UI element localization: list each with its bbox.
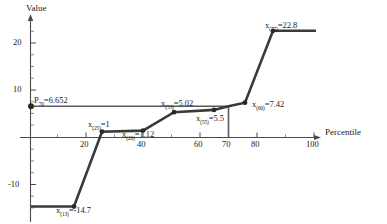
marker-label-x13: x(13)=-14.7 bbox=[56, 206, 91, 217]
marker-label-x53-value: =5.02 bbox=[174, 98, 194, 108]
x-tick-label-100: 100 bbox=[306, 140, 319, 149]
chart-canvas bbox=[0, 0, 387, 224]
annotation-p70: P70=6.652 bbox=[34, 96, 68, 107]
x-tick-label-70: 70 bbox=[222, 140, 231, 149]
x-tick-label-60: 60 bbox=[194, 140, 203, 149]
marker-label-x13-value: =-14.7 bbox=[69, 205, 92, 215]
marker-label-x55-sub: (55) bbox=[200, 119, 208, 125]
data-point-markers bbox=[28, 28, 275, 209]
marker-x53 bbox=[172, 110, 177, 115]
x-tick-label-40: 40 bbox=[137, 140, 146, 149]
y-tick-label-10: 10 bbox=[13, 85, 22, 94]
marker-x55 bbox=[212, 108, 217, 113]
marker-label-x26: x(26)=1.12 bbox=[122, 130, 154, 141]
percentile-curve bbox=[31, 31, 316, 207]
marker-label-x77-value: =22.8 bbox=[278, 20, 298, 30]
y-tick-label-neg10: -10 bbox=[8, 180, 19, 189]
x-tick-marks bbox=[86, 133, 314, 138]
marker-label-x25-sub: (25) bbox=[92, 125, 100, 131]
marker-label-x25-value: =1 bbox=[101, 119, 110, 129]
marker-label-x26-sub: (26) bbox=[126, 135, 134, 141]
x-tick-label-80: 80 bbox=[251, 140, 260, 149]
marker-label-x55-value: =5.5 bbox=[209, 113, 224, 123]
marker-label-x26-value: =1.12 bbox=[135, 129, 155, 139]
marker-label-x25: x(25)=1 bbox=[88, 120, 110, 131]
y-axis-title: Value bbox=[26, 4, 47, 13]
y-tick-label-20: 20 bbox=[13, 38, 22, 47]
marker-label-x60: x(60)=7.42 bbox=[252, 100, 284, 111]
marker-x60 bbox=[243, 100, 248, 105]
marker-label-x60-sub: (60) bbox=[256, 105, 264, 111]
marker-label-x13-sub: (13) bbox=[60, 211, 68, 217]
annotation-p70-value: =6.652 bbox=[44, 95, 68, 105]
marker-label-x77: x(77)=22.8 bbox=[265, 21, 297, 32]
x-axis-title: Percentile bbox=[325, 128, 361, 137]
chart-figure: Value Percentile 20 10 -10 20 40 60 70 8… bbox=[0, 0, 387, 224]
marker-label-x60-value: =7.42 bbox=[265, 99, 285, 109]
marker-label-x53-sub: (53) bbox=[165, 104, 173, 110]
y-axis-arrowhead bbox=[28, 14, 33, 21]
marker-label-x77-sub: (77) bbox=[269, 26, 277, 32]
x-tick-label-20: 20 bbox=[80, 140, 89, 149]
marker-label-x53: x(53)=5.02 bbox=[161, 99, 193, 110]
marker-label-x55: x(55)=5.5 bbox=[196, 114, 224, 125]
